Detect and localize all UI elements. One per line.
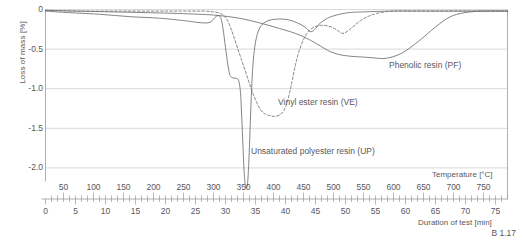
temperature-tick-label: 600 <box>386 183 400 192</box>
y-tick-label: 0 <box>38 5 43 14</box>
duration-tick-label: 55 <box>371 207 380 216</box>
duration-tick-label: 60 <box>401 207 410 216</box>
duration-tick-label: 20 <box>161 207 170 216</box>
duration-tick-label: 50 <box>341 207 350 216</box>
temperature-tick-label: 200 <box>146 183 160 192</box>
series-line-pf <box>46 10 508 58</box>
y-tick-label: -1.5 <box>28 124 43 133</box>
temperature-tick-label: 300 <box>206 183 220 192</box>
duration-axis-title: Duration of test [min] <box>418 219 492 227</box>
gridlines <box>46 10 508 168</box>
series-annotation: Phenolic resin (PF) <box>389 61 461 70</box>
temperature-tick-label: 150 <box>116 183 130 192</box>
temperature-tick-label: 550 <box>356 183 370 192</box>
temperature-tick-label: 650 <box>416 183 430 192</box>
temperature-tick-label: 700 <box>446 183 460 192</box>
duration-tick-label: 45 <box>311 207 320 216</box>
duration-tick-label: 40 <box>281 207 290 216</box>
duration-axis-ticks <box>46 199 502 205</box>
series-line-up <box>46 11 508 188</box>
y-tick-label: -1.0 <box>28 84 43 93</box>
y-tick-label: -2.0 <box>28 163 43 172</box>
duration-tick-label: 70 <box>461 207 470 216</box>
temperature-tick-label: 100 <box>86 183 100 192</box>
duration-tick-label: 35 <box>251 207 260 216</box>
temperature-tick-label: 250 <box>176 183 190 192</box>
figure-container: Loss of mass [%] 0-0.5-1.0-1.5-2.0 Tempe… <box>0 0 524 241</box>
temperature-tick-label: 50 <box>59 183 68 192</box>
temperature-axis-ticks <box>52 193 508 200</box>
duration-tick-label: 30 <box>221 207 230 216</box>
temperature-tick-label: 450 <box>296 183 310 192</box>
duration-tick-label: 5 <box>73 207 78 216</box>
data-curves <box>46 10 508 188</box>
temperature-tick-label: 350 <box>236 183 250 192</box>
temperature-tick-label: 400 <box>266 183 280 192</box>
y-tick-label: -0.5 <box>28 45 43 54</box>
duration-tick-label: 65 <box>431 207 440 216</box>
temperature-tick-label: 750 <box>476 183 490 192</box>
series-annotation: Vinyl ester resin (VE) <box>278 98 358 107</box>
figure-caption: B 1.17 <box>491 229 516 238</box>
duration-tick-label: 15 <box>131 207 140 216</box>
chart-plot-area <box>0 0 524 241</box>
temperature-axis-title: Temperature [°C] <box>432 171 493 179</box>
duration-tick-label: 75 <box>491 207 500 216</box>
series-annotation: Unsaturated polyester resin (UP) <box>251 147 375 156</box>
temperature-tick-label: 500 <box>326 183 340 192</box>
duration-tick-label: 0 <box>43 207 48 216</box>
duration-tick-label: 10 <box>101 207 110 216</box>
y-axis-tick-labels: 0-0.5-1.0-1.5-2.0 <box>0 0 43 241</box>
duration-tick-label: 25 <box>191 207 200 216</box>
